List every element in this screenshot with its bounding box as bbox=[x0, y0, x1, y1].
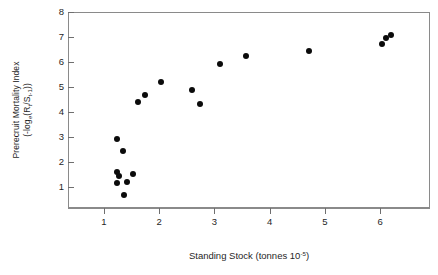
data-point bbox=[121, 192, 127, 198]
y-axis-tick-label: 4 bbox=[42, 106, 64, 117]
y-axis-tick-label: 1 bbox=[42, 181, 64, 192]
x-axis-tick bbox=[104, 208, 105, 214]
x-axis-tick bbox=[159, 208, 160, 214]
data-point bbox=[306, 48, 312, 54]
y-axis-tick bbox=[68, 187, 74, 188]
x-axis-tick bbox=[380, 208, 381, 214]
x-axis-tick-label: 2 bbox=[149, 216, 169, 227]
y-axis-tick-label: 8 bbox=[42, 6, 64, 17]
x-axis-tick-label: 3 bbox=[204, 216, 224, 227]
y-axis-tick bbox=[68, 12, 74, 13]
x-axis-tick bbox=[325, 208, 326, 214]
y-axis-tick-label: 2 bbox=[42, 156, 64, 167]
x-axis-tick-label: 5 bbox=[315, 216, 335, 227]
data-point bbox=[114, 180, 120, 186]
data-point bbox=[114, 136, 120, 142]
x-axis-left-stub bbox=[68, 196, 69, 209]
x-axis-spine bbox=[68, 208, 430, 209]
y-axis-tick-label: 5 bbox=[42, 81, 64, 92]
data-point bbox=[135, 99, 141, 105]
y-axis-title-container: Prerecruit Mortality Index (-loge(Rt/St-… bbox=[0, 0, 46, 220]
x-axis-tick-label: 1 bbox=[94, 216, 114, 227]
y-axis-title-line2: (-loge(Rt/St-1)) bbox=[22, 61, 35, 158]
data-point bbox=[197, 101, 203, 107]
y-axis-tick bbox=[68, 162, 74, 163]
data-point bbox=[189, 87, 195, 93]
y-axis-tick bbox=[68, 37, 74, 38]
data-point bbox=[379, 41, 385, 47]
data-point bbox=[388, 32, 394, 38]
y-axis-title-line1: Prerecruit Mortality Index bbox=[11, 61, 22, 158]
y-axis-tick bbox=[68, 87, 74, 88]
x-axis-tick bbox=[214, 208, 215, 214]
data-point bbox=[142, 92, 148, 98]
data-point bbox=[120, 148, 126, 154]
plot-area bbox=[68, 12, 430, 208]
data-point bbox=[124, 179, 130, 185]
data-point bbox=[217, 61, 223, 67]
y-axis-tick bbox=[68, 137, 74, 138]
y-axis-tick bbox=[68, 112, 74, 113]
x-axis-tick bbox=[270, 208, 271, 214]
y-axis-tick-label: 7 bbox=[42, 31, 64, 42]
x-axis-title: Standing Stock (tonnes 10-5) bbox=[68, 250, 430, 261]
y-axis-tick-label: 3 bbox=[42, 131, 64, 142]
scatter-chart-figure: Prerecruit Mortality Index (-loge(Rt/St-… bbox=[0, 0, 438, 275]
y-axis-tick bbox=[68, 62, 74, 63]
y-axis-tick-label: 6 bbox=[42, 56, 64, 67]
data-points-layer bbox=[69, 13, 429, 207]
x-axis-tick-label: 6 bbox=[370, 216, 390, 227]
x-axis-tick-label: 4 bbox=[260, 216, 280, 227]
data-point bbox=[243, 53, 249, 59]
y-axis-title: Prerecruit Mortality Index (-loge(Rt/St-… bbox=[11, 61, 35, 158]
data-point bbox=[158, 79, 164, 85]
data-point bbox=[116, 173, 122, 179]
data-point bbox=[130, 171, 136, 177]
